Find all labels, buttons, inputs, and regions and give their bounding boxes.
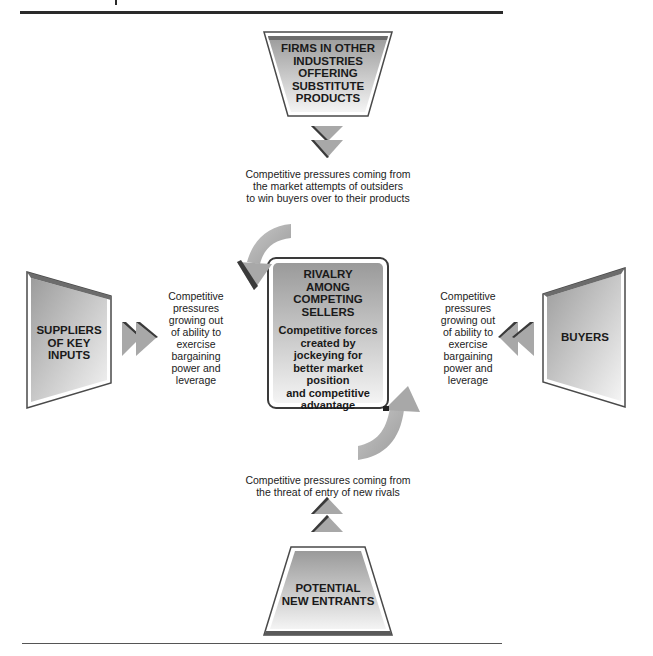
label-line: SUPPLIERS (32, 324, 106, 337)
body-line: better market (270, 362, 386, 375)
label-line: SUBSTITUTE (270, 80, 386, 93)
title-line: RIVALRY (272, 268, 384, 281)
label-line: BUYERS (552, 331, 618, 344)
substitutes-chevron-arrow (311, 126, 343, 158)
title-line: SELLERS (272, 306, 384, 319)
body-line: advantage (270, 399, 386, 412)
note-line: Competitive pressures coming from (228, 168, 428, 180)
note-line: bargaining (430, 350, 506, 362)
substitutes-pressure-note: Competitive pressures coming from the ma… (228, 168, 428, 204)
label-line: INPUTS (32, 349, 106, 362)
rivalry-title: RIVALRY AMONG COMPETING SELLERS (272, 268, 384, 318)
label-line: POTENTIAL (280, 582, 376, 595)
body-line: position (270, 374, 386, 387)
suppliers-chevron-arrow (122, 322, 158, 356)
note-line: exercise (158, 338, 234, 350)
note-line: pressures (158, 302, 234, 314)
note-line: power and (158, 362, 234, 374)
note-line: bargaining (158, 350, 234, 362)
note-line: leverage (158, 374, 234, 386)
suppliers-box-label: SUPPLIERS OF KEY INPUTS (32, 324, 106, 362)
label-line: NEW ENTRANTS (280, 595, 376, 608)
title-line: AMONG (272, 281, 384, 294)
note-line: leverage (430, 374, 506, 386)
note-line: Competitive pressures coming from (228, 474, 428, 486)
note-line: power and (430, 362, 506, 374)
note-line: Competitive (158, 290, 234, 302)
buyers-box-label: BUYERS (552, 331, 618, 344)
body-line: and competitive (270, 387, 386, 400)
note-line: the market attempts of outsiders (228, 180, 428, 192)
substitutes-box-label: FIRMS IN OTHER INDUSTRIES OFFERING SUBST… (270, 42, 386, 105)
new-entrants-box-label: POTENTIAL NEW ENTRANTS (280, 582, 376, 607)
note-line: Competitive (430, 290, 506, 302)
note-line: exercise (430, 338, 506, 350)
rivalry-description: Competitive forces created by jockeying … (270, 324, 386, 412)
buyers-pressure-note: Competitive pressures growing out of abi… (430, 290, 506, 386)
label-line: OF KEY (32, 337, 106, 350)
body-line: jockeying for (270, 349, 386, 362)
note-line: of ability to (158, 326, 234, 338)
label-line: FIRMS IN OTHER (270, 42, 386, 55)
body-line: created by (270, 337, 386, 350)
title-line: COMPETING (272, 293, 384, 306)
suppliers-pressure-note: Competitive pressures growing out of abi… (158, 290, 234, 386)
new-entrants-pressure-note: Competitive pressures coming from the th… (228, 474, 428, 498)
label-line: INDUSTRIES (270, 55, 386, 68)
body-line: Competitive forces (270, 324, 386, 337)
note-line: the threat of entry of new rivals (228, 486, 428, 498)
label-line: PRODUCTS (270, 92, 386, 105)
note-line: growing out (430, 314, 506, 326)
note-line: pressures (430, 302, 506, 314)
note-line: growing out (158, 314, 234, 326)
label-line: OFFERING (270, 67, 386, 80)
note-line: of ability to (430, 326, 506, 338)
new-entrants-chevron-arrow (311, 497, 343, 532)
note-line: to win buyers over to their products (228, 192, 428, 204)
